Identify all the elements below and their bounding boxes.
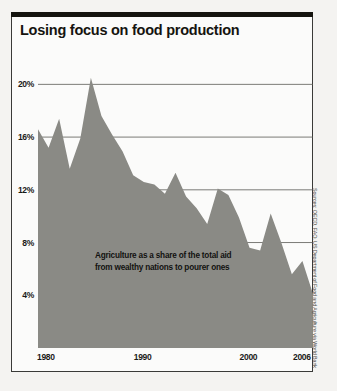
x-tick-label-1990: 1990 [134, 352, 152, 362]
chart-title: Losing focus on food production [20, 22, 239, 38]
x-tick-label-2006: 2006 [293, 352, 311, 362]
x-tick-label-2000: 2000 [240, 352, 258, 362]
source-credit: Sources: OECD, FAO, US Department of Foo… [312, 188, 318, 368]
y-axis: 20%16%12%8%4% [0, 58, 34, 348]
chart-figure: Losing focus on food production 20%16%12… [0, 0, 337, 391]
area-series-path [38, 78, 313, 348]
annotation-line-2: from wealthy nations to pourer ones [95, 262, 275, 274]
plot-area [38, 58, 313, 348]
y-tick-label-20%: 20% [6, 79, 34, 89]
area-chart-svg [38, 58, 313, 348]
title-rule [11, 12, 313, 17]
y-tick-label-12%: 12% [6, 185, 34, 195]
x-axis: 1980199020002006 [38, 352, 318, 368]
y-tick-label-16%: 16% [6, 132, 34, 142]
y-tick-label-8%: 8% [6, 238, 34, 248]
annotation-line-1: Agriculture as a share of the total aid [95, 250, 275, 262]
chart-annotation: Agriculture as a share of the total aid … [95, 250, 275, 273]
x-tick-label-1980: 1980 [37, 352, 55, 362]
y-tick-label-4%: 4% [6, 290, 34, 300]
